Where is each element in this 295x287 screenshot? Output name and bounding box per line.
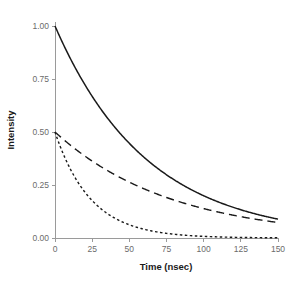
x-tick-label: 50 xyxy=(125,244,135,254)
solid-curve xyxy=(55,26,278,219)
y-axis-title: Intensity xyxy=(5,110,16,150)
y-tick-label: 1.00 xyxy=(32,21,49,31)
chart-plot-area: 0.000.250.500.751.00 0255075100125150 Ti… xyxy=(0,0,295,287)
chart-figure: 0.000.250.500.751.00 0255075100125150 Ti… xyxy=(0,0,295,287)
data-curves xyxy=(55,26,278,238)
long-dashed-curve xyxy=(55,132,278,223)
x-tick-label: 75 xyxy=(162,244,172,254)
x-tick-label: 125 xyxy=(234,244,248,254)
short-dashed-curve xyxy=(55,132,278,238)
y-tick-label: 0.25 xyxy=(32,180,49,190)
y-tick-label: 0.75 xyxy=(32,74,49,84)
x-tick-label: 150 xyxy=(271,244,285,254)
x-tick-label: 0 xyxy=(53,244,58,254)
x-axis-title: Time (nsec) xyxy=(140,261,193,272)
axis-ticks xyxy=(52,26,279,242)
y-tick-label: 0.00 xyxy=(32,233,49,243)
x-tick-label: 25 xyxy=(87,244,97,254)
x-tick-label: 100 xyxy=(197,244,211,254)
x-tick-labels: 0255075100125150 xyxy=(53,244,286,254)
y-tick-label: 0.50 xyxy=(32,127,49,137)
y-tick-labels: 0.000.250.500.751.00 xyxy=(32,21,49,243)
